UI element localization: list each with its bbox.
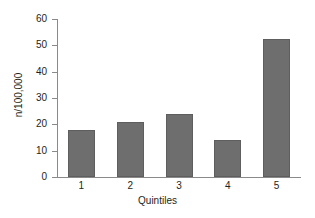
bar [263, 39, 290, 177]
x-axis-tick-label: 3 [159, 181, 199, 191]
y-axis-tick-label: 20 [7, 119, 47, 129]
bar [68, 130, 95, 177]
x-axis-tick-label: 2 [110, 181, 150, 191]
y-axis-line [57, 19, 58, 177]
y-axis-tick [52, 45, 57, 46]
x-axis-tick-label: 1 [61, 181, 101, 191]
x-axis-line [57, 177, 301, 178]
y-axis-tick [52, 124, 57, 125]
bar [214, 140, 241, 177]
y-axis-tick-label: 50 [7, 40, 47, 50]
y-axis-tick [52, 19, 57, 20]
y-axis-tick-label: 0 [7, 172, 47, 182]
x-axis-title: Quintiles [0, 196, 315, 206]
y-axis-tick-label: 10 [7, 146, 47, 156]
y-axis-title: n/100,000 [14, 45, 24, 145]
y-axis-tick [52, 151, 57, 152]
y-axis-tick-label: 60 [7, 14, 47, 24]
y-axis-tick [52, 72, 57, 73]
y-axis-tick [52, 98, 57, 99]
x-axis-tick-label: 4 [208, 181, 248, 191]
bar [117, 122, 144, 177]
bar [166, 114, 193, 177]
bar-chart: 0102030405060 12345 Quintiles n/100,000 [0, 0, 315, 218]
x-axis-tick-label: 5 [257, 181, 297, 191]
y-axis-tick [52, 177, 57, 178]
